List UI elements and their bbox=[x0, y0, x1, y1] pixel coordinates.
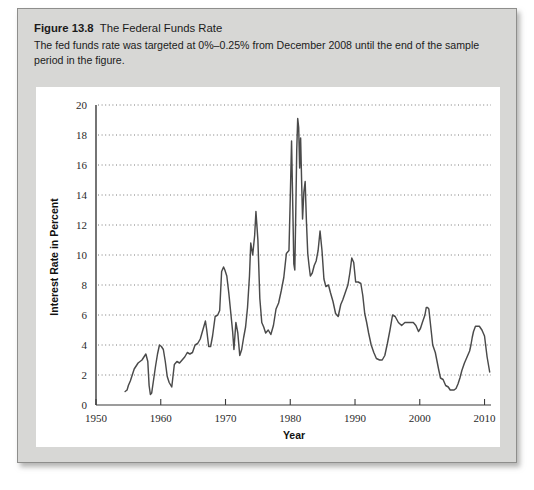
figure-number: Figure 13.8 bbox=[34, 22, 94, 34]
y-tick-label: 20 bbox=[76, 99, 88, 111]
y-tick-label: 4 bbox=[82, 339, 88, 351]
x-axis-title: Year bbox=[283, 429, 305, 441]
figure-name: The Federal Funds Rate bbox=[100, 22, 222, 34]
x-tick-label: 1970 bbox=[215, 412, 238, 424]
y-tick-label: 14 bbox=[76, 189, 88, 201]
y-tick-label: 8 bbox=[82, 279, 88, 291]
y-tick-label: 6 bbox=[82, 309, 88, 321]
y-tick-label: 0 bbox=[82, 399, 88, 411]
y-tick-label: 2 bbox=[82, 369, 88, 381]
y-axis-tick-labels: 02468101214161820 bbox=[76, 99, 88, 411]
y-tick-label: 18 bbox=[76, 129, 88, 141]
y-tick-label: 10 bbox=[76, 249, 88, 261]
x-axis bbox=[96, 399, 491, 405]
x-tick-label: 1960 bbox=[150, 412, 173, 424]
plot-card: 02468101214161820 1950196019701980199020… bbox=[36, 87, 500, 447]
y-tick-label: 16 bbox=[76, 159, 88, 171]
x-tick-label: 1990 bbox=[344, 412, 367, 424]
figure-panel: Figure 13.8 The Federal Funds Rate The f… bbox=[17, 8, 517, 463]
x-tick-label: 1980 bbox=[279, 412, 302, 424]
figure-caption: Figure 13.8 The Federal Funds Rate The f… bbox=[34, 21, 504, 67]
federal-funds-rate-line bbox=[125, 119, 490, 395]
x-axis-tick-labels: 1950196019701980199020002010 bbox=[85, 412, 496, 424]
y-tick-label: 12 bbox=[76, 219, 87, 231]
y-axis-title: Interest Rate in Percent bbox=[48, 198, 60, 316]
x-tick-label: 1950 bbox=[85, 412, 108, 424]
x-axis-ticks bbox=[96, 399, 485, 405]
federal-funds-rate-chart: 02468101214161820 1950196019701980199020… bbox=[36, 87, 500, 447]
x-tick-label: 2000 bbox=[409, 412, 432, 424]
figure-title: Figure 13.8 The Federal Funds Rate bbox=[34, 21, 504, 36]
x-tick-label: 2010 bbox=[474, 412, 497, 424]
figure-description: The fed funds rate was targeted at 0%–0.… bbox=[34, 38, 496, 67]
